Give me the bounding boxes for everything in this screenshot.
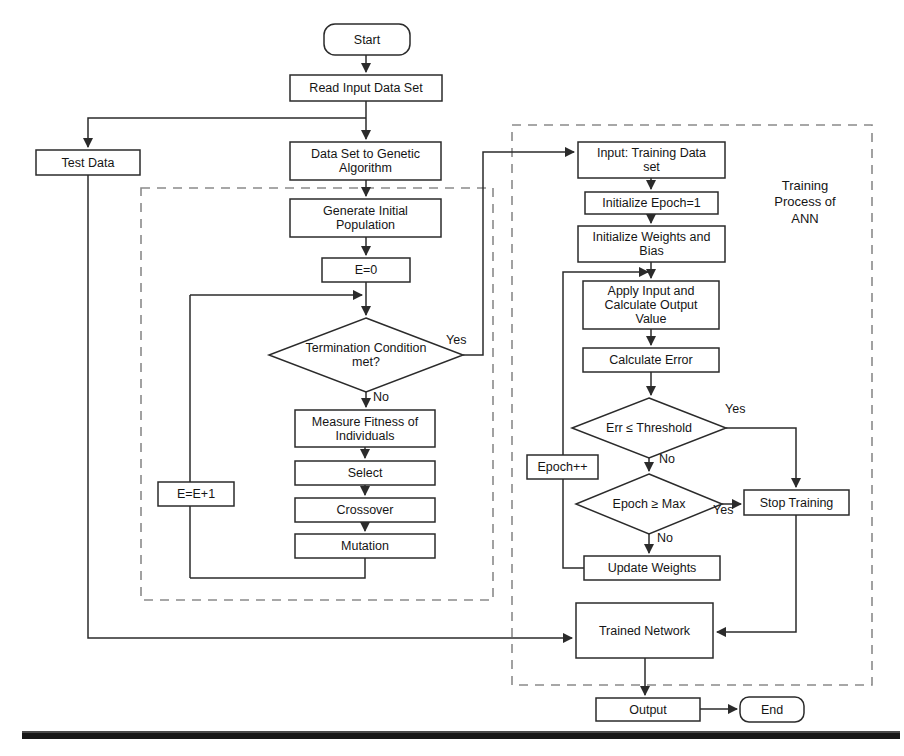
edge-stop-training-to-trained-network (717, 515, 796, 632)
node-select[interactable] (295, 461, 435, 485)
flowchart-canvas (0, 0, 904, 756)
node-measure-fitness[interactable] (295, 410, 435, 447)
node-epoch-increment[interactable] (527, 455, 598, 479)
edge-err-yes-to-stop-training (726, 428, 796, 487)
edge-update-weights-to-epoch-increment (563, 479, 584, 568)
node-input-training-data[interactable] (578, 142, 725, 178)
edge-test-data-to-trained-network (88, 175, 572, 638)
node-start[interactable] (324, 24, 410, 55)
edge-termination-yes-to-input-training (463, 152, 574, 355)
node-read-input[interactable] (290, 75, 442, 101)
group-boundaries (141, 125, 872, 685)
node-output[interactable] (596, 698, 700, 721)
node-dataset-to-ga[interactable] (290, 142, 441, 180)
scan-artifact-bar (22, 731, 900, 739)
node-trained-network[interactable] (576, 603, 713, 658)
node-e-increment[interactable] (158, 482, 234, 506)
node-initialize-epoch[interactable] (585, 192, 718, 214)
node-calculate-error[interactable] (583, 348, 719, 372)
node-epoch-max[interactable] (576, 474, 722, 534)
node-termination-condition[interactable] (269, 318, 463, 392)
node-generate-initial-population[interactable] (290, 199, 441, 237)
node-test-data[interactable] (36, 150, 140, 175)
node-end[interactable] (740, 697, 804, 722)
node-e-zero[interactable] (322, 258, 410, 282)
node-update-weights[interactable] (584, 556, 720, 580)
node-err-threshold[interactable] (572, 398, 726, 458)
node-crossover[interactable] (295, 498, 435, 522)
node-stop-training[interactable] (744, 490, 849, 515)
node-apply-input[interactable] (583, 281, 719, 329)
edge-mutation-to-e-increment (190, 558, 365, 578)
node-initialize-weights[interactable] (578, 226, 725, 262)
node-mutation[interactable] (295, 534, 435, 558)
